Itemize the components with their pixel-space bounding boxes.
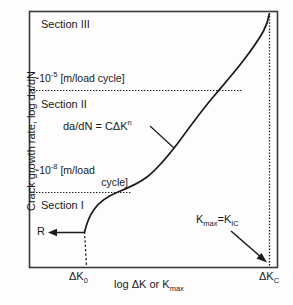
lower-rate-line1-suffix: [m/load	[57, 164, 94, 176]
x-axis-title-text: log ΔK or K	[114, 278, 170, 290]
x-tick-delta-k0-text: ΔK	[69, 270, 84, 282]
x-tick-delta-kc: ΔKC	[259, 270, 279, 286]
y-axis-title: Crack growth rate, log da/dN	[25, 26, 37, 256]
upper-rate-suffix: [m/load cycle]	[57, 72, 124, 84]
x-axis-title: log ΔK or Kmax	[114, 278, 184, 294]
paris-equation-exponent: n	[128, 118, 132, 127]
x-tick-delta-k0: ΔK0	[69, 270, 88, 286]
kmax-eq: =K	[218, 213, 232, 225]
upper-rate-threshold-label: ~10-5 [m/load cycle]	[33, 71, 125, 84]
lower-rate-line2: cycle]	[33, 176, 128, 188]
paris-equation-text: da/dN = CΔK	[63, 120, 128, 132]
kmax-kic-label: Kmax=KIC	[196, 213, 239, 229]
lower-rate-threshold-label: ~10-8 [m/loadcycle]	[33, 163, 128, 188]
x-tick-delta-kc-sub: C	[274, 276, 279, 285]
section-2-label: Section II	[41, 98, 87, 111]
kmax-annotation-line	[231, 231, 262, 258]
chart-canvas	[0, 0, 293, 305]
r-annotation-label: R	[37, 225, 45, 238]
kmax-k-sub: max	[203, 219, 217, 228]
r-annotation-arrowhead	[48, 229, 57, 236]
paris-equation-leader-line	[150, 126, 174, 148]
x-tick-delta-k0-sub: 0	[84, 276, 88, 285]
paris-equation-label: da/dN = CΔKn	[63, 119, 132, 132]
x-tick-delta-kc-text: ΔK	[259, 270, 274, 282]
fatigue-crack-growth-chart: Section III ~10-5 [m/load cycle] Section…	[0, 0, 293, 305]
section-3-label: Section III	[41, 18, 90, 31]
section-1-label: Section I	[41, 199, 84, 212]
delta-k0-dashed-extension	[85, 232, 87, 266]
plot-frame	[30, 12, 278, 268]
x-axis-title-sub: max	[170, 284, 184, 293]
kmax-eq-sub: IC	[231, 219, 239, 228]
